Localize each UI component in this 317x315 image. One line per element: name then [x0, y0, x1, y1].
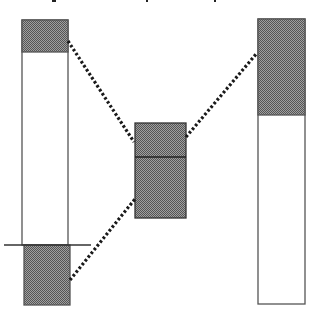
cropped-text-fragment — [146, 0, 148, 2]
right-column-shaded-top — [258, 19, 305, 115]
lower-left-connector — [70, 199, 135, 280]
left-column-shaded-top — [22, 20, 68, 52]
cropped-text-fragment — [52, 0, 56, 2]
cropped-text-fragment — [214, 0, 216, 2]
diagram-canvas — [0, 0, 317, 315]
upper-left-connector — [68, 41, 134, 142]
middle-box — [135, 123, 186, 218]
left-column — [22, 20, 68, 245]
right-connector — [186, 53, 257, 137]
left-column-shaded-bottom — [24, 245, 70, 305]
